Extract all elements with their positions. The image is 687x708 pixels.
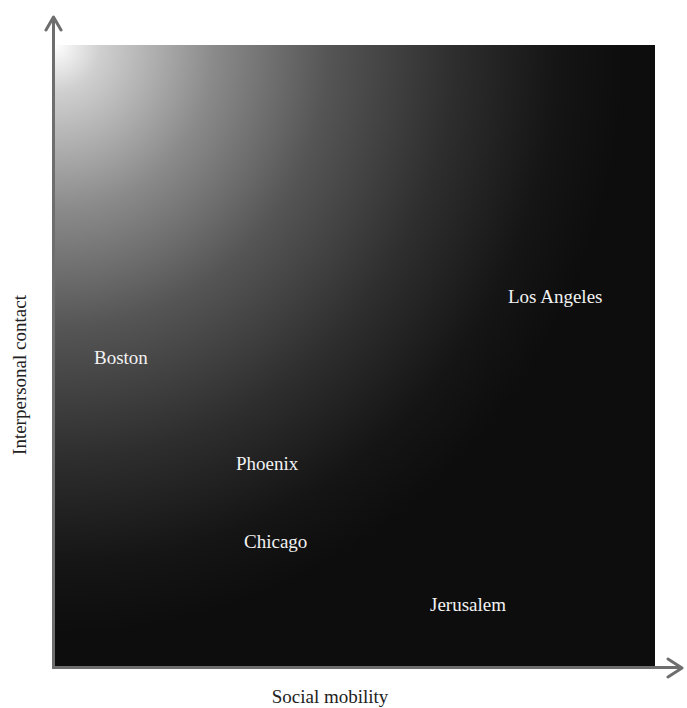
y-axis-arrow-icon	[44, 14, 64, 32]
label-jerusalem: Jerusalem	[430, 595, 506, 614]
x-axis-line	[52, 666, 680, 669]
label-phoenix: Phoenix	[236, 454, 298, 473]
y-axis-line	[52, 18, 55, 668]
label-boston: Boston	[94, 348, 148, 367]
x-axis-arrow-icon	[665, 657, 685, 679]
label-chicago: Chicago	[244, 532, 307, 551]
x-axis-label: Social mobility	[272, 686, 389, 708]
y-axis-label: Interpersonal contact	[9, 295, 31, 455]
label-los-angeles: Los Angeles	[508, 287, 602, 306]
